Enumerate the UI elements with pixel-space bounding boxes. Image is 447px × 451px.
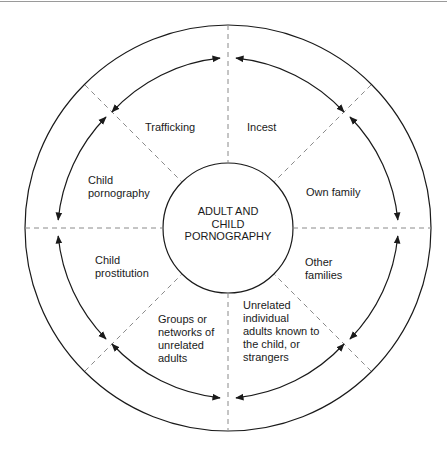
arrow-trafficking — [112, 58, 220, 112]
arrow-other-families — [350, 236, 398, 339]
segment-label-child-prostitution: Child prostitution — [95, 254, 149, 280]
arrow-own-family — [350, 117, 398, 220]
segment-label-incest: Incest — [247, 121, 276, 134]
segment-label-other-families: Other families — [305, 256, 342, 282]
arrow-child-prostitution — [58, 236, 106, 339]
segment-label-groups-networks: Groups or networks of unrelated adults — [158, 313, 214, 365]
segment-label-child-pornography: Child pornography — [88, 174, 150, 200]
segment-label-trafficking: Trafficking — [145, 121, 195, 134]
center-label: ADULT AND CHILD PORNOGRAPHY — [163, 205, 293, 243]
segment-label-unrelated-individuals: Unrelated individual adults known to the… — [243, 299, 319, 364]
arrow-incest — [236, 58, 344, 112]
segment-label-own-family: Own family — [306, 186, 360, 199]
arrow-child-pornography — [58, 117, 106, 220]
